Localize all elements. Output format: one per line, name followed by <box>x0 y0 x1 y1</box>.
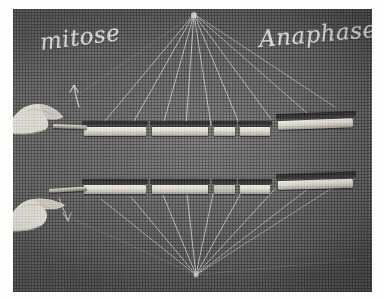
photographic-plate-page: mitose Anaphase <box>0 0 384 298</box>
photo-vignette-layer <box>13 9 372 292</box>
halftone-photograph: mitose Anaphase <box>13 9 372 292</box>
